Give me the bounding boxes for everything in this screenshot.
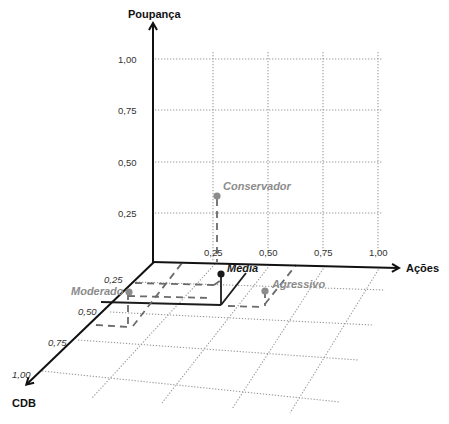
svg-text:Moderado: Moderado bbox=[71, 285, 124, 297]
svg-text:0,75: 0,75 bbox=[314, 247, 333, 258]
poupanca-axis-title: Poupança bbox=[128, 8, 181, 20]
wall-grid bbox=[155, 52, 382, 262]
svg-text:0,50: 0,50 bbox=[78, 306, 97, 317]
svg-text:1,00: 1,00 bbox=[118, 54, 137, 65]
acoes-ticks: 0,25 0,50 0,75 1,00 bbox=[204, 247, 388, 258]
poupanca-ticks: 1,00 0,75 0,50 0,25 bbox=[118, 54, 137, 219]
point-moderado: Moderado bbox=[71, 285, 133, 297]
svg-text:Agressivo: Agressivo bbox=[271, 278, 325, 290]
svg-text:0,25: 0,25 bbox=[118, 208, 137, 219]
point-conservador: Conservador bbox=[213, 180, 291, 200]
axes bbox=[27, 24, 398, 384]
svg-text:0,25: 0,25 bbox=[204, 247, 223, 258]
svg-text:Conservador: Conservador bbox=[223, 180, 292, 192]
svg-text:0,25: 0,25 bbox=[104, 274, 123, 285]
acoes-axis bbox=[152, 262, 398, 268]
3d-portfolio-chart: Poupança Ações CDB 1,00 0,75 0,50 0,25 0… bbox=[0, 0, 449, 424]
svg-text:0,75: 0,75 bbox=[118, 105, 137, 116]
svg-text:Média: Média bbox=[227, 262, 258, 274]
acoes-axis-title: Ações bbox=[406, 262, 439, 274]
svg-text:0,75: 0,75 bbox=[48, 337, 67, 348]
cdb-axis-title: CDB bbox=[12, 397, 36, 409]
svg-text:1,00: 1,00 bbox=[369, 247, 388, 258]
svg-text:0,50: 0,50 bbox=[259, 247, 278, 258]
svg-text:0,50: 0,50 bbox=[118, 157, 137, 168]
svg-text:1,00: 1,00 bbox=[12, 369, 31, 380]
